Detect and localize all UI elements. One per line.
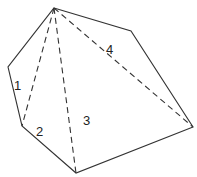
diagonal-A-E xyxy=(22,8,54,126)
diagonal-A-C xyxy=(54,8,193,127)
region-label-2: 2 xyxy=(36,124,43,139)
region-label-4: 4 xyxy=(106,42,113,57)
polygon-outline xyxy=(8,8,193,173)
diagonal-A-D xyxy=(54,8,76,173)
region-label-1: 1 xyxy=(14,78,21,93)
triangulated-polygon-diagram: 1 2 3 4 xyxy=(0,0,197,177)
region-label-3: 3 xyxy=(83,113,90,128)
